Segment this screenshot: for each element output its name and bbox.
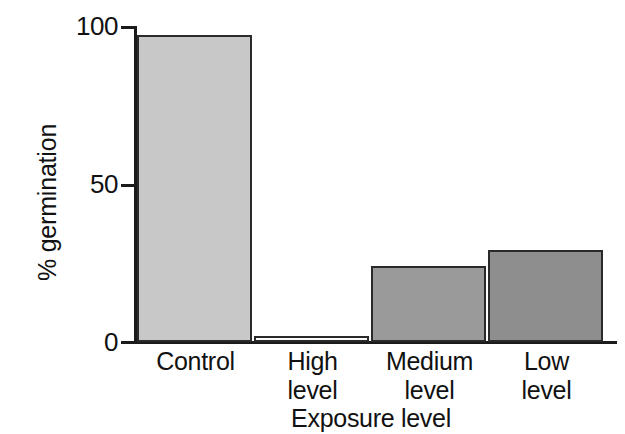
x-tick-label-low-level-line2: level [488, 376, 605, 405]
x-tick-label-high-level-line1: High [287, 347, 337, 375]
x-tick-label-medium-level-line2: level [371, 376, 488, 405]
y-tick-mark-0 [121, 341, 135, 344]
plot-area [137, 26, 605, 342]
x-tick-label-medium-level: Medium level [371, 347, 488, 405]
bar-low-level [488, 250, 603, 342]
x-tick-label-control: Control [137, 347, 254, 376]
bar-high-level [254, 336, 369, 342]
x-tick-label-high-level-line2: level [254, 376, 371, 405]
y-axis-title: % germination [33, 78, 62, 328]
bar-medium-level [371, 266, 486, 342]
x-tick-label-control-line1: Control [156, 347, 235, 375]
bar-chart: % germination 100 50 0 Control High leve… [0, 0, 625, 434]
y-tick-mark-100 [121, 26, 135, 29]
x-tick-labels: Control High level Medium level Low leve… [137, 347, 605, 407]
y-tick-label-50: 50 [48, 171, 118, 197]
x-tick-label-medium-level-line1: Medium [386, 347, 473, 375]
x-axis-title: Exposure level [137, 404, 605, 433]
y-tick-mark-50 [121, 184, 135, 187]
y-tick-label-0: 0 [48, 329, 118, 355]
bar-control [137, 35, 252, 342]
x-tick-label-low-level: Low level [488, 347, 605, 405]
x-tick-label-low-level-line1: Low [524, 347, 569, 375]
x-tick-label-high-level: High level [254, 347, 371, 405]
y-tick-label-100: 100 [48, 13, 118, 39]
